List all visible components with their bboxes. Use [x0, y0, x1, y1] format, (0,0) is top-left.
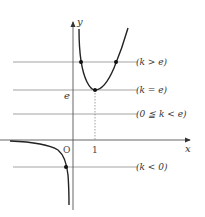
horizontal-lines [13, 62, 137, 167]
label-k-0-to-e: (0 ≦ k < e) [136, 109, 187, 119]
curve-right-branch [79, 28, 128, 90]
intersection-point-left [79, 60, 83, 64]
intersection-point-right [114, 60, 118, 64]
label-k-gt-e: (k > e) [136, 57, 168, 67]
function-graph: y x O 1 e (k > e) (k = e) (0 ≦ k < e) (k… [0, 0, 205, 217]
curve-left-branch [10, 141, 69, 205]
x-axis-label: x [185, 143, 191, 154]
origin-label: O [63, 145, 70, 155]
label-k-eq-e: (k = e) [136, 85, 168, 95]
x-tick-1-label: 1 [92, 145, 98, 155]
y-axis-label: y [76, 16, 83, 27]
minimum-point [93, 88, 97, 92]
y-tick-e-label: e [64, 90, 70, 101]
intersection-point-negative [64, 165, 68, 169]
label-k-lt-0: (k < 0) [136, 162, 168, 172]
